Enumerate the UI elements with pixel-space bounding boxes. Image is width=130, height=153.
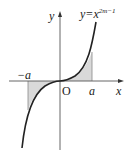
y-axis-label: y bbox=[49, 10, 54, 22]
pos-a-label: a bbox=[89, 85, 95, 97]
y-axis-arrow-icon bbox=[58, 11, 62, 17]
x-axis-arrow-icon bbox=[118, 79, 124, 83]
shaded-region-negative bbox=[28, 81, 60, 110]
x-axis-label: x bbox=[116, 85, 121, 97]
function-label-base: y=x bbox=[80, 7, 99, 21]
function-label: y=x2m−1 bbox=[80, 8, 116, 20]
origin-label: O bbox=[62, 85, 71, 97]
shaded-region-positive bbox=[60, 52, 92, 81]
neg-a-label: −a bbox=[17, 69, 31, 81]
function-label-exponent: 2m−1 bbox=[99, 7, 116, 15]
